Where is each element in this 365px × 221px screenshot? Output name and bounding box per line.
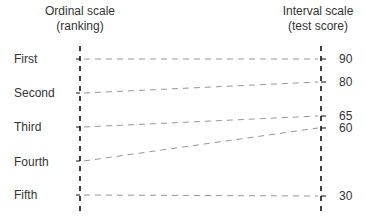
connector-fifth-30 [84,195,318,196]
rank-label-second: Second [14,86,55,100]
scale-diagram [0,0,365,221]
score-label-90: 90 [339,52,352,66]
rank-label-first: First [14,52,37,66]
score-label-80: 80 [339,75,352,89]
rank-label-fourth: Fourth [14,155,49,169]
score-label-30: 30 [339,189,352,203]
rank-label-third: Third [14,120,41,134]
connector-fourth-60 [84,128,318,161]
score-label-60: 60 [339,121,352,135]
connector-third-65 [84,116,318,127]
connector-second-80 [84,82,318,93]
rank-label-fifth: Fifth [14,188,37,202]
